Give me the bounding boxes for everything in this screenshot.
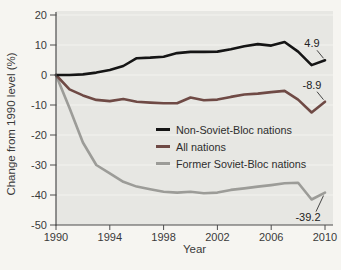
callout-label: -39.2	[295, 211, 320, 223]
y-tick-label: -40	[31, 189, 47, 201]
legend-item-label: All nations	[176, 141, 226, 153]
x-tick-label: 1998	[151, 231, 175, 243]
y-tick-label: -10	[31, 99, 47, 111]
x-tick-label: 2006	[259, 231, 283, 243]
y-tick-label: -50	[31, 219, 47, 231]
y-tick-label: 0	[41, 69, 47, 81]
x-axis-label: Year	[56, 243, 333, 255]
legend-item-label: Former Soviet-Bloc nations	[176, 158, 306, 170]
y-tick-label: 20	[35, 9, 47, 21]
legend-swatch	[156, 128, 170, 131]
legend-item: Former Soviet-Bloc nations	[156, 157, 306, 170]
x-tick-label: 1994	[98, 231, 122, 243]
callout-label: 4.9	[304, 37, 319, 49]
y-tick-label: -20	[31, 129, 47, 141]
legend-item: Non-Soviet-Bloc nations	[156, 123, 306, 136]
legend: Non-Soviet-Bloc nationsAll nationsFormer…	[156, 123, 306, 170]
callout-label: -8.9	[303, 79, 322, 91]
legend-swatch	[156, 145, 170, 148]
x-tick-label: 2010	[313, 231, 337, 243]
legend-swatch	[156, 162, 170, 165]
x-tick-label: 1990	[44, 231, 68, 243]
y-tick-label: 10	[35, 39, 47, 51]
legend-item-label: Non-Soviet-Bloc nations	[176, 124, 292, 136]
y-tick-label: -30	[31, 159, 47, 171]
legend-item: All nations	[156, 140, 306, 153]
x-tick-label: 2002	[205, 231, 229, 243]
chart: Change from 1990 level (%) 20100-10-20-3…	[0, 0, 341, 270]
